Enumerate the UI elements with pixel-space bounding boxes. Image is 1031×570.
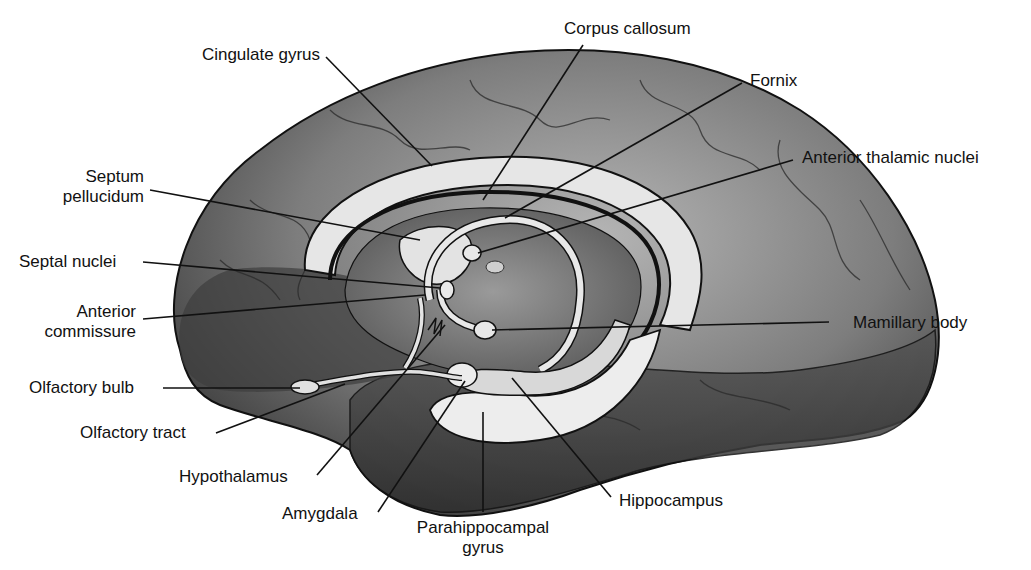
label-cingulate-gyrus: Cingulate gyrus	[150, 45, 320, 65]
label-anterior-thalamic-nuclei: Anterior thalamic nuclei	[802, 148, 979, 168]
label-parahippocampal-gyrus-line1: Parahippocampal	[400, 518, 566, 538]
label-mamillary-body: Mamillary body	[853, 313, 967, 333]
label-anterior-commissure-line2: commissure	[10, 322, 136, 342]
label-parahippocampal-gyrus-line2: gyrus	[400, 538, 566, 558]
label-septal-nuclei: Septal nuclei	[19, 252, 116, 272]
septal-nuclei	[440, 281, 454, 299]
label-hippocampus: Hippocampus	[619, 491, 723, 511]
thalamic-spot	[486, 261, 504, 273]
olfactory-bulb	[291, 380, 319, 394]
label-septum-pellucidum: Septum pellucidum	[20, 167, 144, 207]
label-fornix: Fornix	[750, 71, 797, 91]
label-anterior-commissure-line1: Anterior	[10, 302, 136, 322]
label-corpus-callosum: Corpus callosum	[564, 19, 691, 39]
label-parahippocampal-gyrus: Parahippocampal gyrus	[400, 518, 566, 558]
label-olfactory-bulb: Olfactory bulb	[29, 378, 134, 398]
label-olfactory-tract: Olfactory tract	[80, 423, 186, 443]
label-anterior-commissure: Anterior commissure	[10, 302, 136, 342]
label-septum-pellucidum-line2: pellucidum	[20, 187, 144, 207]
limbic-system-illustration	[0, 0, 1031, 570]
label-hypothalamus: Hypothalamus	[179, 467, 288, 487]
label-septum-pellucidum-line1: Septum	[20, 167, 144, 187]
label-amygdala: Amygdala	[282, 504, 358, 524]
